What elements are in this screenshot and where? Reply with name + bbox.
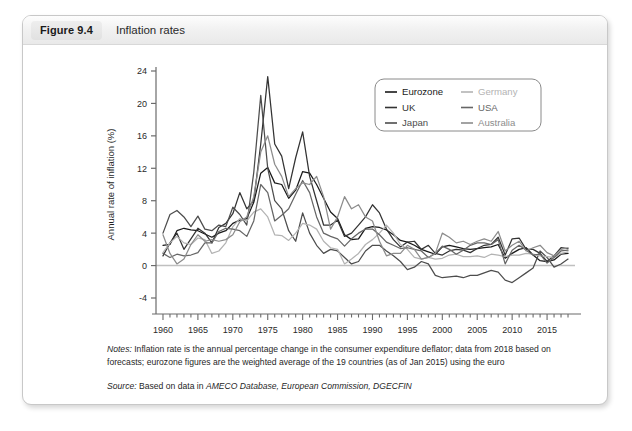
legend-label-eurozone: Eurozone [402,86,443,97]
figure-number-badge: Figure 9.4 [31,21,102,40]
screenshot-root: Figure 9.4 Inflation rates -404812162024… [0,0,632,431]
y-axis-title: Annual rate of inflation (%) [105,129,116,241]
source-line: Source: Based on data in AMECO Database,… [107,380,577,393]
legend-label-germany: Germany [478,86,518,97]
legend-label-australia: Australia [478,117,516,128]
figure-footnotes: Notes: Inflation rate is the annual perc… [107,343,577,394]
x-tick-label: 2010 [502,325,522,335]
y-tick-label: 20 [137,99,147,109]
x-tick-label: 2000 [432,325,452,335]
x-tick-label: 1965 [188,325,208,335]
figure-title: Inflation rates [116,24,185,36]
source-label: Source: [107,381,137,391]
chart-area: -404812162024196019651970197519801985199… [23,45,607,347]
x-tick-label: 1960 [153,325,173,335]
notes-line: Notes: Inflation rate is the annual perc… [107,343,577,369]
y-tick-label: 12 [137,164,147,174]
y-tick-label: -4 [139,293,147,303]
x-tick-label: 1995 [397,325,417,335]
source-plain-text: Based on data in [137,381,206,391]
x-tick-label: 2015 [537,325,557,335]
legend-label-japan: Japan [402,117,428,128]
source-citation: AMECO Database, European Commission, DGE… [206,381,412,391]
y-tick-label: 0 [142,261,147,271]
x-tick-label: 1985 [328,325,348,335]
x-tick-label: 1970 [223,325,243,335]
y-tick-label: 24 [137,66,147,76]
series-line-eurozone [163,167,568,261]
chart-legend: EurozoneGermanyUKUSAJapanAustralia [375,79,541,131]
y-tick-label: 16 [137,131,147,141]
x-tick-label: 1990 [362,325,382,335]
notes-text: Inflation rate is the annual percentage … [107,344,551,367]
x-tick-label: 1975 [258,325,278,335]
legend-label-usa: USA [478,102,498,113]
notes-label: Notes: [107,344,132,354]
x-tick-label: 2005 [467,325,487,335]
y-tick-label: 8 [142,196,147,206]
figure-panel: Figure 9.4 Inflation rates -404812162024… [22,15,608,405]
legend-label-uk: UK [402,102,416,113]
y-tick-label: 4 [142,229,147,239]
figure-header-bar: Figure 9.4 Inflation rates [23,16,607,45]
inflation-line-chart: -404812162024196019651970197519801985199… [23,45,607,347]
x-tick-label: 1980 [293,325,313,335]
